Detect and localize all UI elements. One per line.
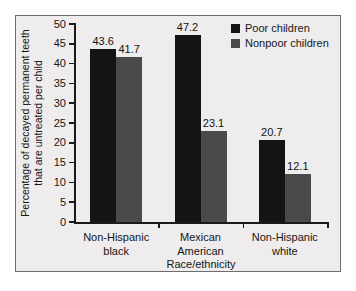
legend-label: Poor children (245, 22, 310, 35)
x-axis-line (74, 222, 328, 224)
bar-value-label: 47.2 (172, 21, 204, 34)
y-tick-label: 0 (60, 215, 66, 230)
y-tick-label: 45 (54, 36, 66, 51)
y-tick-mark (69, 142, 74, 144)
y-tick-label: 25 (54, 116, 66, 131)
category-label: Non-Hispanicwhite (235, 231, 335, 258)
x-tick-mark (243, 222, 245, 228)
bar (201, 131, 227, 222)
legend-item: Nonpoor children (231, 36, 329, 50)
y-axis-line (74, 23, 76, 223)
category-label-line: Non-Hispanic (235, 231, 335, 245)
y-tick-mark (69, 201, 74, 203)
y-tick-label: 50 (54, 17, 66, 32)
y-tick-label: 40 (54, 56, 66, 71)
y-tick-mark (69, 102, 74, 104)
y-axis-title-line2: that are untreated per child (32, 24, 45, 222)
y-tick-mark (69, 221, 74, 223)
y-tick-mark (69, 182, 74, 184)
y-tick-mark (69, 63, 74, 65)
bar (116, 57, 142, 222)
y-tick-label: 30 (54, 96, 66, 111)
legend: Poor childrenNonpoor children (231, 21, 329, 51)
legend-item: Poor children (231, 21, 329, 35)
y-tick-mark (69, 122, 74, 124)
legend-swatch (231, 24, 240, 33)
y-tick-mark (69, 162, 74, 164)
y-tick-label: 5 (60, 195, 66, 210)
y-tick-label: 15 (54, 155, 66, 170)
figure: Percentage of decayed permanent teeth th… (0, 0, 356, 291)
x-tick-mark (327, 222, 329, 228)
bar (285, 174, 311, 222)
y-tick-mark (69, 83, 74, 85)
y-axis-title-line1: Percentage of decayed permanent teeth (19, 24, 32, 222)
y-axis-title: Percentage of decayed permanent teeth th… (17, 24, 47, 222)
y-tick-mark (69, 43, 74, 45)
y-tick-label: 10 (54, 175, 66, 190)
bar-value-label: 23.1 (198, 117, 230, 130)
bar (90, 49, 116, 222)
y-tick-mark (69, 23, 74, 25)
y-tick-label: 35 (54, 76, 66, 91)
bar-value-label: 20.7 (256, 126, 288, 139)
category-label-line: white (235, 245, 335, 259)
bar (259, 140, 285, 222)
bar-value-label: 12.1 (282, 160, 314, 173)
bar-value-label: 41.7 (113, 43, 145, 56)
y-tick-label: 20 (54, 135, 66, 150)
x-axis-title: Race/ethnicity (74, 258, 328, 271)
legend-label: Nonpoor children (245, 37, 329, 50)
x-tick-mark (158, 222, 160, 228)
legend-swatch (231, 39, 240, 48)
